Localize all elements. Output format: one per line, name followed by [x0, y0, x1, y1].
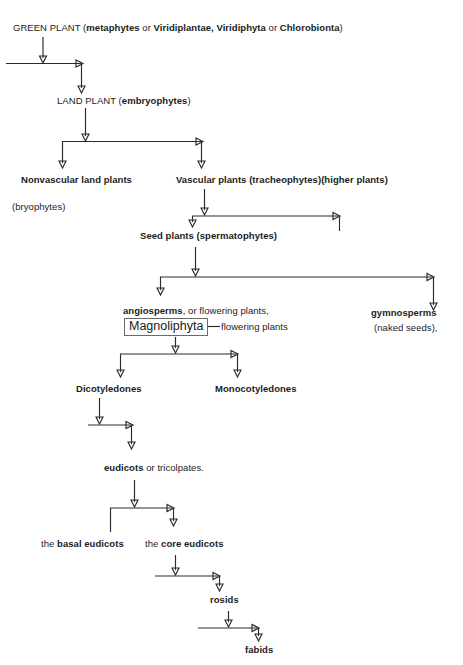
- land-plant-bold-embryophytes: embryophytes: [122, 95, 188, 106]
- seed-plants-label: Seed plants (spermatophytes): [140, 230, 277, 241]
- magnoliphyta-label: Magnoliphyta: [129, 319, 203, 333]
- eudicots-suffix: or tricolpates.: [143, 462, 203, 473]
- bryophytes-label: (bryophytes): [12, 201, 65, 212]
- gymnosperms-naked-seeds-label: (naked seeds),: [374, 322, 438, 333]
- angiosperms-label: angiosperms: [123, 305, 183, 316]
- fabids-label: fabids: [245, 644, 273, 655]
- core-eudicots-prefix: the: [145, 538, 161, 549]
- node-seed-plants: Seed plants (spermatophytes): [140, 230, 277, 242]
- node-fabids: fabids: [245, 644, 273, 656]
- node-dicotyledones: Dicotyledones: [76, 383, 142, 395]
- node-rosids: rosids: [210, 594, 239, 606]
- green-plant-tail: ): [340, 22, 343, 33]
- green-plant-bold-metaphytes: metaphytes: [86, 22, 139, 33]
- green-plant-mid-1: or: [140, 22, 154, 33]
- classification-diagram: GREEN PLANT (metaphytes or Viridiplantae…: [0, 0, 463, 665]
- node-angiosperms: angiosperms, or flowering plants,: [123, 305, 269, 317]
- nonvascular-label: Nonvascular land plants: [21, 174, 132, 185]
- node-gymnosperms-naked-seeds: (naked seeds),: [374, 322, 438, 334]
- node-green-plant: GREEN PLANT (metaphytes or Viridiplantae…: [13, 22, 343, 34]
- core-eudicots-label: core eudicots: [161, 538, 223, 549]
- green-plant-mid-2: or: [266, 22, 280, 33]
- green-plant-bold-chlorobionta: Chlorobionta: [280, 22, 340, 33]
- angiosperms-suffix: , or flowering plants,: [183, 305, 269, 316]
- node-land-plant: LAND PLANT (embryophytes): [57, 95, 191, 107]
- rosids-label: rosids: [210, 594, 239, 605]
- basal-eudicots-label: basal eudicots: [57, 538, 124, 549]
- node-nonvascular-land-plants: Nonvascular land plants: [21, 174, 132, 186]
- gymnosperms-label: gymnosperms: [371, 307, 437, 318]
- eudicots-label: eudicots: [104, 462, 143, 473]
- green-plant-lead: GREEN PLANT (: [13, 22, 86, 33]
- monocotyledones-label: Monocotyledones: [215, 383, 297, 394]
- land-plant-tail: ): [187, 95, 190, 106]
- land-plant-lead: LAND PLANT (: [57, 95, 122, 106]
- node-eudicots: eudicots or tricolpates.: [104, 462, 204, 474]
- node-core-eudicots: the core eudicots: [145, 538, 223, 550]
- node-bryophytes: (bryophytes): [12, 201, 65, 213]
- green-plant-bold-viridiplantae: Viridiplantae, Viridiphyta: [154, 22, 266, 33]
- flowering-plants-label: flowering plants: [221, 321, 288, 332]
- node-gymnosperms: gymnosperms: [371, 307, 437, 319]
- vascular-label: Vascular plants (tracheophytes)(higher p…: [176, 174, 388, 185]
- node-flowering-plants: flowering plants: [221, 321, 288, 333]
- node-monocotyledones: Monocotyledones: [215, 383, 297, 395]
- basal-eudicots-prefix: the: [41, 538, 57, 549]
- node-basal-eudicots: the basal eudicots: [41, 538, 124, 550]
- magnoliphyta-box[interactable]: Magnoliphyta: [124, 318, 208, 336]
- node-vascular-plants: Vascular plants (tracheophytes)(higher p…: [176, 174, 388, 186]
- dicotyledones-label: Dicotyledones: [76, 383, 142, 394]
